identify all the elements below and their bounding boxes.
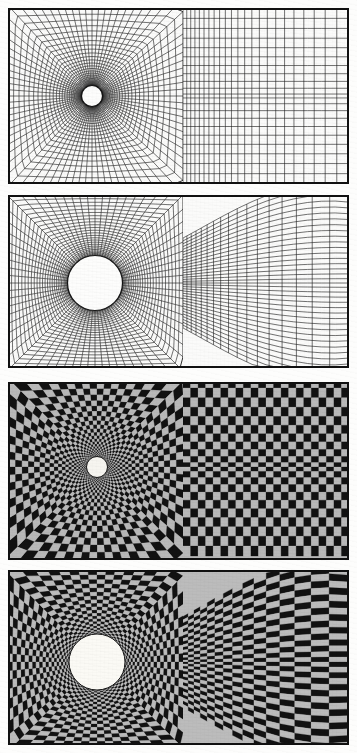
mesh-panel-b xyxy=(8,195,349,368)
figure-root: Computational grids around a circular cy… xyxy=(0,0,357,753)
polar-o-grid-checkerboard xyxy=(8,570,349,745)
mesh-panel-c xyxy=(8,382,349,560)
square-o-grid-checkerboard xyxy=(8,382,349,560)
polar-o-grid-wireframe xyxy=(8,195,349,368)
mesh-panel-d xyxy=(8,570,349,745)
square-o-grid-wireframe xyxy=(8,8,349,184)
mesh-panel-a xyxy=(8,8,349,184)
